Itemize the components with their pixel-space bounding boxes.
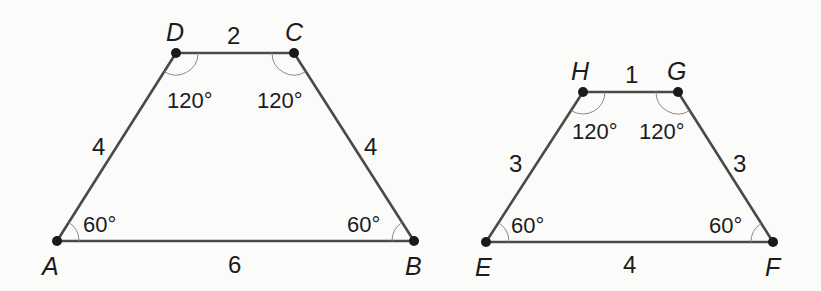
vertex-h: [578, 87, 588, 97]
vertex-label-d: D: [166, 18, 184, 46]
angle-label-c: 120°: [257, 88, 303, 113]
angle-label-g: 120°: [639, 119, 685, 144]
vertex-label-f: F: [765, 253, 782, 281]
angle-label-b: 60°: [347, 212, 380, 237]
vertex-label-c: C: [285, 18, 304, 46]
side-label-fg: 3: [733, 150, 746, 177]
vertex-label-g: G: [667, 57, 686, 85]
trapezoid-abcd: A B C D 6 4 2 4 60° 60° 120° 120°: [40, 18, 422, 280]
angle-label-e: 60°: [511, 213, 544, 238]
vertex-f: [768, 237, 778, 247]
angle-arc-f: [751, 224, 761, 243]
side-label-gh: 1: [625, 61, 638, 88]
side-label-cd: 2: [227, 22, 240, 49]
trapezoid-efgh: E F G H 4 3 1 3 60° 60° 120° 120°: [475, 57, 782, 281]
vertex-b: [409, 236, 419, 246]
angle-label-a: 60°: [83, 212, 116, 237]
angle-arc-e: [499, 223, 510, 242]
vertex-d: [171, 48, 181, 58]
vertex-label-e: E: [475, 253, 492, 281]
angle-label-h: 120°: [572, 119, 618, 144]
vertex-label-b: B: [405, 252, 422, 280]
side-label-he: 3: [509, 150, 522, 177]
angle-arc-a: [69, 222, 79, 241]
angle-arc-b: [392, 222, 402, 241]
side-label-ab: 6: [228, 251, 241, 278]
side-label-ef: 4: [623, 251, 636, 278]
angle-label-f: 60°: [709, 213, 742, 238]
vertex-c: [289, 48, 299, 58]
vertex-label-a: A: [40, 252, 59, 280]
vertex-a: [52, 236, 62, 246]
side-label-bc: 4: [364, 133, 377, 160]
diagram-canvas: A B C D 6 4 2 4 60° 60° 120° 120° E F G: [0, 0, 821, 291]
vertex-e: [481, 237, 491, 247]
angle-label-d: 120°: [167, 88, 213, 113]
vertex-label-h: H: [571, 57, 590, 85]
side-da: [57, 53, 176, 241]
side-label-da: 4: [92, 133, 105, 160]
vertex-g: [673, 87, 683, 97]
